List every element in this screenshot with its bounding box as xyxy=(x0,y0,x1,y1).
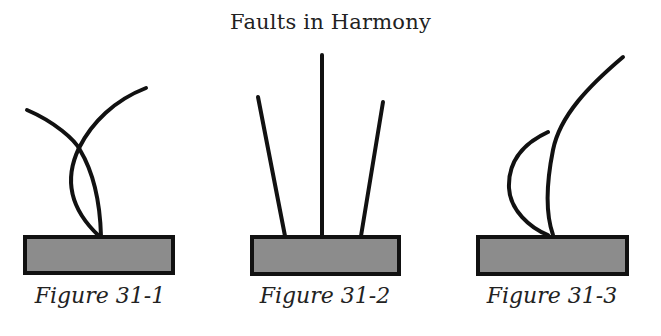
base-block xyxy=(252,237,399,274)
fault-line-right xyxy=(361,102,383,236)
fault-line-left xyxy=(258,97,285,236)
figure-31-3 xyxy=(478,57,627,274)
base-block xyxy=(25,237,173,273)
fault-line-tall xyxy=(548,57,623,235)
fault-line-short xyxy=(509,132,548,235)
fault-line-b xyxy=(71,88,146,236)
figure-caption-1: Figure 31-1 xyxy=(0,283,200,308)
base-block xyxy=(478,237,627,274)
figure-31-1 xyxy=(25,88,173,273)
figure-caption-3: Figure 31-3 xyxy=(452,283,652,308)
figure-31-2 xyxy=(252,55,399,274)
figure-caption-2: Figure 31-2 xyxy=(225,283,425,308)
